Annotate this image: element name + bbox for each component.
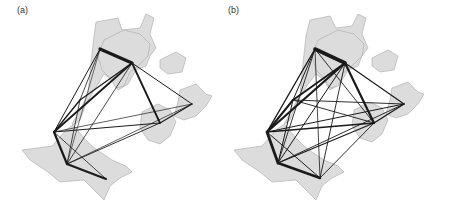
figure: (a) (b) — [0, 0, 452, 208]
panel-label-a: (a) — [17, 5, 28, 15]
panel-a-region — [160, 52, 186, 74]
flow-edge — [67, 104, 192, 164]
panel-label-b: (b) — [228, 5, 239, 15]
panel-a-region — [174, 84, 212, 120]
flow-edge — [278, 104, 404, 163]
map-canvas — [0, 0, 452, 208]
land-map-panel-a — [22, 14, 212, 200]
panel-b-region — [372, 50, 398, 72]
land-map-panel-b — [234, 14, 424, 200]
flow-edge — [293, 100, 404, 104]
flow-edge — [320, 123, 374, 178]
